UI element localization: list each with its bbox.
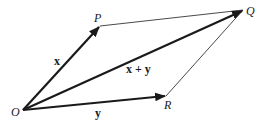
edge-p-q — [100, 10, 243, 26]
vector-y-arrow — [23, 96, 165, 110]
point-label-o: O — [11, 106, 20, 118]
vector-parallelogram-diagram: O P Q R x y x + y — [0, 0, 262, 124]
vector-label-x: x — [54, 55, 60, 67]
vector-label-y: y — [95, 107, 101, 119]
point-label-r: R — [164, 99, 171, 111]
vector-label-x-plus-y: x + y — [126, 63, 151, 75]
edge-r-q — [166, 10, 243, 96]
point-label-p: P — [94, 12, 101, 24]
point-label-q: Q — [246, 5, 255, 17]
vector-x-arrow — [23, 27, 99, 110]
